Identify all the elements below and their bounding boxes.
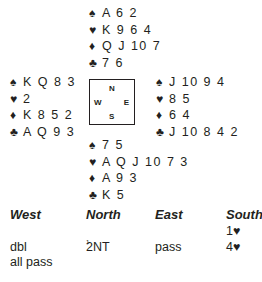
spade-icon: ♠ — [10, 74, 23, 91]
diamond-icon: ♦ — [89, 38, 102, 55]
auction-row: 1♥ — [0, 224, 262, 240]
compass-west: W — [94, 98, 102, 107]
header-east: East — [155, 207, 182, 222]
header-west: West — [10, 207, 41, 222]
compass-north: N — [109, 84, 115, 93]
club-icon: ♣ — [89, 187, 102, 204]
header-south: South — [226, 207, 262, 222]
bid-south-1: 1♥ — [226, 224, 240, 238]
compass-south: S — [109, 112, 114, 121]
compass-box: N W E S — [89, 79, 135, 125]
west-hand: ♠K Q 8 3 ♥2 ♦K 8 5 2 ♣A Q 9 3 — [10, 74, 76, 140]
heart-icon: ♥ — [10, 91, 23, 108]
auction-row: all pass — [0, 255, 262, 271]
club-icon: ♣ — [89, 55, 102, 72]
header-north: North — [86, 207, 121, 222]
heart-icon: ♥ — [156, 91, 169, 108]
bid-south-4h: 4♥ — [226, 240, 240, 254]
east-hand: ♠J 10 9 4 ♥8 5 ♦6 4 ♣J 10 8 4 2 — [156, 74, 239, 140]
auction-row: dbl 2NT1 pass 4♥ — [0, 240, 262, 256]
spade-icon: ♠ — [89, 5, 102, 22]
diamond-icon: ♦ — [10, 107, 23, 124]
footnote-marker: 1 — [86, 239, 89, 245]
spade-icon: ♠ — [89, 137, 102, 154]
south-hand: ♠7 5 ♥A Q J 10 7 3 ♦A 9 3 ♣K 5 — [89, 137, 189, 203]
club-icon: ♣ — [10, 124, 23, 141]
diamond-icon: ♦ — [156, 107, 169, 124]
compass-east: E — [124, 98, 129, 107]
bid-west-dbl: dbl — [10, 240, 27, 254]
auction-header: West North East South — [0, 207, 262, 224]
bid-east-pass: pass — [155, 240, 181, 254]
heart-icon: ♥ — [89, 22, 102, 39]
bid-all-pass: all pass — [10, 255, 52, 269]
bid-north-2nt: 2NT1 — [86, 240, 89, 254]
diamond-icon: ♦ — [89, 170, 102, 187]
heart-icon: ♥ — [89, 154, 102, 171]
spade-icon: ♠ — [156, 74, 169, 91]
north-hand: ♠A 6 2 ♥K 9 6 4 ♦Q J 10 7 ♣7 6 — [89, 5, 161, 71]
auction-table: West North East South 1♥ dbl 2NT1 pass 4… — [0, 207, 262, 271]
